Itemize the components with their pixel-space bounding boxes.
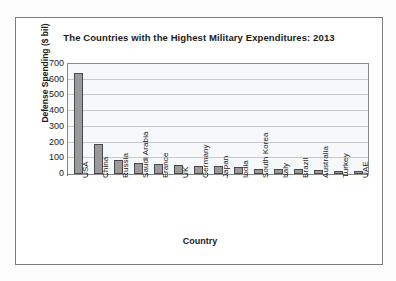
gridline	[68, 94, 368, 95]
chart-title: The Countries with the Highest Military …	[16, 32, 382, 43]
x-tick-label: Australia	[321, 146, 330, 178]
x-tick-label: Saudi Arabia	[141, 131, 150, 178]
y-tick-label: 500	[30, 89, 64, 99]
gridline	[68, 79, 368, 80]
y-tick-label: 300	[30, 121, 64, 131]
x-tick-label: USA	[81, 161, 90, 178]
scanned-page: The Countries with the Highest Military …	[0, 0, 396, 281]
x-tick-label: India	[241, 160, 250, 178]
x-tick-label: France	[161, 153, 170, 179]
gridline	[68, 142, 368, 143]
x-tick-label: Turkey	[341, 153, 350, 178]
y-tick-label: 400	[30, 105, 64, 115]
y-tick-label: 0	[30, 168, 64, 178]
x-tick-label: Russia	[121, 153, 130, 178]
chart-frame: The Countries with the Highest Military …	[15, 17, 383, 265]
x-tick-label: China	[101, 157, 110, 178]
x-tick-label: UK	[181, 167, 190, 178]
bar-usa	[74, 73, 83, 174]
y-tick-label: 600	[30, 74, 64, 84]
x-axis-title: Country	[16, 236, 384, 246]
y-tick-label: 100	[30, 152, 64, 162]
y-tick-label: 200	[30, 137, 64, 147]
gridline	[68, 110, 368, 111]
x-tick-label: Japan	[221, 156, 230, 178]
y-axis-tick-labels: 0100200300400500600700	[28, 63, 64, 173]
x-tick-label: Brazil	[301, 157, 310, 178]
y-tick-label: 700	[30, 58, 64, 68]
gridline	[68, 126, 368, 127]
x-tick-label: South Korea	[261, 132, 270, 178]
x-tick-label: UAE	[361, 161, 370, 178]
x-tick-label: Germany	[201, 144, 210, 178]
x-tick-label: Italy	[281, 163, 290, 178]
x-tick-mark	[67, 173, 68, 176]
